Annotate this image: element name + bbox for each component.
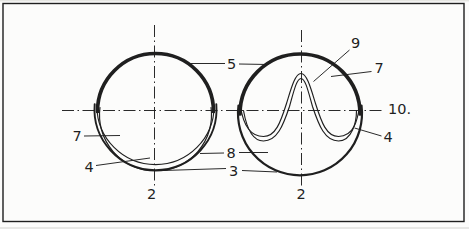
ref-label-9: 9 [351, 35, 360, 51]
patent-figure: 5 7 4 8 3 2 9 7 10. 4 2 [0, 0, 469, 229]
ref-label-10: 10. [388, 101, 411, 117]
right-section-view [238, 30, 362, 186]
ref-label-2-left: 2 [147, 186, 156, 202]
left-upper-shell-arc [98, 54, 214, 112]
leader-8-to-left-view [200, 153, 224, 154]
reference-numerals: 5 7 4 8 3 2 9 7 10. 4 2 [72, 35, 411, 202]
ref-label-2-right: 2 [296, 186, 305, 202]
drawing-sheet: 5 7 4 8 3 2 9 7 10. 4 2 [0, 0, 469, 229]
ref-label-4-left: 4 [84, 159, 93, 175]
leader-5-right [239, 64, 269, 65]
ref-label-7-right: 7 [374, 60, 383, 76]
scan-artifact-top [0, 0, 469, 1]
leader-7-right [331, 72, 372, 77]
ref-label-3: 3 [229, 163, 238, 179]
left-section-view [94, 25, 216, 186]
ref-label-4-right: 4 [383, 129, 392, 145]
scan-artifact-bottom [0, 227, 469, 229]
ref-label-7-left: 7 [72, 128, 81, 144]
leader-4-left [96, 158, 150, 166]
left-lower-shell-arc [94, 104, 216, 170]
leader-7-left [84, 136, 120, 137]
right-diaphragm-inner-wave [244, 79, 357, 142]
ref-label-5: 5 [227, 56, 236, 72]
ref-label-8: 8 [226, 145, 235, 161]
leader-3-to-right-view [242, 171, 277, 173]
right-upper-shell-arc [240, 54, 360, 114]
left-diaphragm-inner-arc [100, 108, 212, 171]
right-diaphragm-outer-wave [241, 74, 360, 137]
